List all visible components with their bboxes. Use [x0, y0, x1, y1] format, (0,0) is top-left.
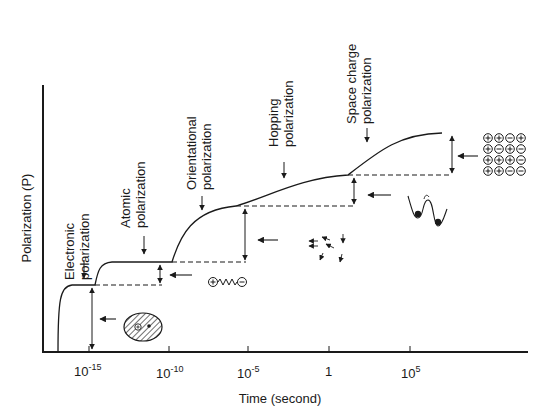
mechanism-label-space-charge: Space charge polarization — [344, 44, 374, 142]
x-tick-label: 10-15 — [74, 362, 101, 379]
charge-grid-icon — [484, 134, 526, 176]
mechanism-label-line1: Orientational — [184, 116, 199, 190]
x-tick-label: 10-10 — [156, 364, 183, 381]
mechanism-label-hopping: Hopping polarization — [266, 81, 296, 179]
x-axis-title: Time (second) — [239, 391, 322, 406]
x-tick-label: 105 — [401, 364, 420, 381]
mechanism-label-line2: polarization — [133, 162, 148, 229]
mechanism-label-line1: Atomic — [118, 188, 133, 228]
mechanism-label-line1: Space charge — [344, 44, 359, 124]
mechanism-label-line1: Electronic — [62, 222, 77, 280]
ion-spring-dipole-icon — [209, 278, 247, 287]
x-tick-labels: 10-15 10-10 10-5 1 105 — [74, 362, 420, 381]
mechanism-label-line1: Hopping — [266, 99, 281, 147]
mechanism-label-line2: polarization — [359, 58, 374, 125]
electron-cloud-icon — [124, 313, 162, 341]
mechanism-label-line2: polarization — [281, 81, 296, 148]
mechanism-label-electronic: Electronic polarization — [62, 214, 92, 281]
x-tick-label: 10-5 — [237, 364, 259, 381]
mechanism-label-orientational: Orientational polarization — [184, 116, 214, 210]
pointer-arrows — [100, 156, 478, 319]
rotating-dipoles-icon — [309, 234, 343, 262]
double-well-hopping-icon — [408, 195, 447, 226]
x-tick-label: 1 — [325, 364, 332, 379]
mechanism-label-line2: polarization — [199, 124, 214, 191]
mechanism-label-atomic: Atomic polarization — [118, 162, 148, 255]
y-axis-title: Polarization (P) — [19, 174, 34, 263]
polarization-mechanisms-diagram: 10-15 10-10 10-5 1 105 Time (second) Pol… — [0, 0, 540, 416]
dashed-level-lines — [95, 175, 452, 285]
